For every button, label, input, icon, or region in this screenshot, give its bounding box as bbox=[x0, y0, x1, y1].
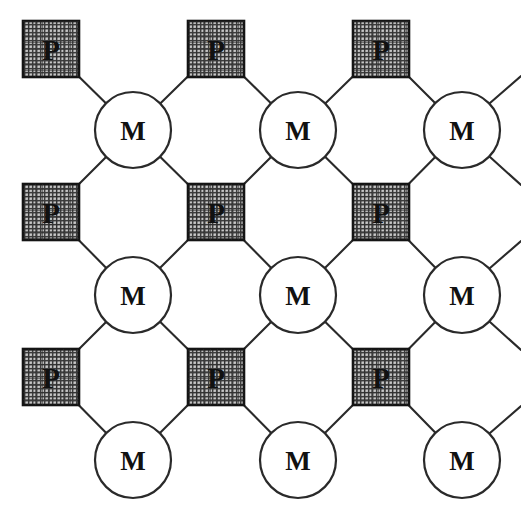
m-node-label: M bbox=[120, 446, 145, 476]
m-node-label: M bbox=[285, 281, 310, 311]
p-node-label: P bbox=[372, 362, 390, 394]
m-node[interactable]: M bbox=[95, 422, 171, 498]
m-node[interactable]: M bbox=[260, 257, 336, 333]
m-node-label: M bbox=[120, 281, 145, 311]
p-node-label: P bbox=[42, 34, 60, 66]
lattice-canvas: PPPPPPPPP MMMMMMMMM bbox=[0, 0, 521, 515]
m-node[interactable]: M bbox=[424, 92, 500, 168]
edge-stub-line bbox=[490, 406, 521, 433]
p-node-label: P bbox=[372, 197, 390, 229]
p-node-label: P bbox=[42, 197, 60, 229]
p-node[interactable]: P bbox=[188, 184, 244, 240]
p-node[interactable]: P bbox=[353, 349, 409, 405]
lattice-diagram: PPPPPPPPP MMMMMMMMM bbox=[0, 0, 521, 515]
p-node[interactable]: P bbox=[23, 21, 79, 77]
p-node-label: P bbox=[42, 362, 60, 394]
edge-stub-line bbox=[490, 241, 521, 268]
m-node-label: M bbox=[285, 116, 310, 146]
p-node[interactable]: P bbox=[188, 21, 244, 77]
p-node[interactable]: P bbox=[353, 21, 409, 77]
m-node[interactable]: M bbox=[424, 422, 500, 498]
p-node[interactable]: P bbox=[23, 184, 79, 240]
m-node[interactable]: M bbox=[260, 422, 336, 498]
m-node-label: M bbox=[285, 446, 310, 476]
p-node-label: P bbox=[207, 197, 225, 229]
p-node[interactable]: P bbox=[188, 349, 244, 405]
m-node[interactable]: M bbox=[260, 92, 336, 168]
edge-stub-line bbox=[490, 157, 521, 185]
p-node[interactable]: P bbox=[353, 184, 409, 240]
m-node-label: M bbox=[120, 116, 145, 146]
p-node-label: P bbox=[207, 34, 225, 66]
p-node-label: P bbox=[207, 362, 225, 394]
edge-stub-line bbox=[490, 76, 521, 103]
m-node-label: M bbox=[449, 446, 474, 476]
m-node[interactable]: M bbox=[95, 92, 171, 168]
m-node-label: M bbox=[449, 281, 474, 311]
m-node[interactable]: M bbox=[424, 257, 500, 333]
m-nodes-group: MMMMMMMMM bbox=[95, 92, 500, 498]
p-node-label: P bbox=[372, 34, 390, 66]
m-node[interactable]: M bbox=[95, 257, 171, 333]
edge-stub-line bbox=[490, 322, 521, 350]
p-node[interactable]: P bbox=[23, 349, 79, 405]
m-node-label: M bbox=[449, 116, 474, 146]
